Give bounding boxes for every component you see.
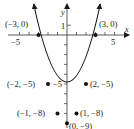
label-point-3-0: (3, 0)	[99, 19, 118, 29]
point-1-neg8	[75, 111, 79, 115]
point-neg3-0	[37, 33, 41, 37]
point-2-neg5	[84, 82, 88, 86]
curve-arrow-left	[34, 4, 35, 8]
label-point-1-neg8: (1, −8)	[80, 108, 103, 118]
y-ticks	[64, 25, 71, 113]
label-point-0-neg9: (0, −9)	[69, 121, 92, 129]
point-neg2-neg5	[46, 82, 50, 86]
tick-label-x-5: 5	[111, 37, 115, 47]
point-neg1-neg8	[56, 111, 60, 115]
parabola-chart: (−3, 0) (3, 0) (−2, −5) (2, −5) (−1, −8)…	[0, 0, 134, 129]
point-3-0	[94, 33, 98, 37]
x-axis-label: x	[124, 25, 129, 34]
label-point-2-neg5: (2, −5)	[90, 79, 113, 89]
label-point-neg2-neg5: (−2, −5)	[7, 79, 35, 89]
tick-label-x-neg5: −5	[11, 37, 20, 47]
y-axis-label: y	[60, 8, 65, 17]
label-point-neg1-neg8: (−1, −8)	[17, 108, 45, 118]
label-point-neg3-0: (−3, 0)	[5, 19, 28, 29]
tick-label-y-1: 1	[61, 21, 65, 31]
tick-label-y-neg5: −5	[53, 79, 62, 89]
curve-arrow-right	[100, 4, 101, 8]
